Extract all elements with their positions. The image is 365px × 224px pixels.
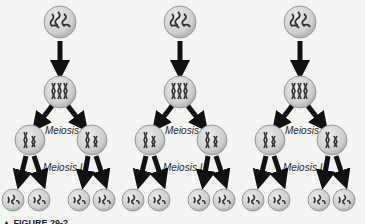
arrow-icon [84, 156, 88, 180]
arrow-icon [336, 156, 344, 180]
gamete-cell [213, 189, 235, 211]
arrow-right-icon [188, 106, 202, 124]
meiosis-1-cell-right [197, 125, 227, 155]
parent-cell [284, 6, 316, 38]
gamete-cell [268, 189, 290, 211]
parent-cell [44, 6, 76, 38]
meiosis-1-cell-left [255, 125, 285, 155]
gamete-cell [188, 189, 210, 211]
arrow-left-icon [158, 106, 172, 124]
column-3: Meiosis I Meiosis II [242, 6, 355, 211]
arrow-icon [216, 156, 224, 180]
parent-cell [164, 6, 196, 38]
arrow-icon [204, 156, 208, 180]
gamete-cell [2, 189, 24, 211]
gamete-cell [148, 189, 170, 211]
gamete-cell [122, 189, 144, 211]
meiosis-1-cell-left [15, 125, 45, 155]
replicated-cell [164, 76, 196, 108]
arrow-icon [260, 156, 266, 180]
gamete-cell [308, 189, 330, 211]
arrow-icon [324, 156, 328, 180]
meiosis-2-label: Meiosis II [43, 162, 85, 173]
meiosis-2-label: Meiosis II [283, 162, 325, 173]
gamete-cell [333, 189, 355, 211]
replicated-cell [284, 76, 316, 108]
arrow-left-icon [278, 106, 292, 124]
column-2: Meiosis I Meiosis II [122, 6, 235, 211]
column-1: Meiosis I Meiosis II [2, 6, 115, 211]
arrow-icon [140, 156, 146, 180]
arrow-right-icon [308, 106, 322, 124]
arrow-icon [34, 156, 42, 180]
gamete-cell [242, 189, 264, 211]
arrow-icon [154, 156, 162, 180]
arrow-icon [96, 156, 104, 180]
meiosis-1-cell-left [135, 125, 165, 155]
arrow-icon [20, 156, 26, 180]
meiosis-2-label: Meiosis II [163, 162, 205, 173]
figure-caption: ▲ FIGURE 29-2 [2, 218, 68, 224]
arrow-icon [274, 156, 282, 180]
replicated-cell [44, 76, 76, 108]
arrow-left-icon [38, 106, 52, 124]
gamete-cell [28, 189, 50, 211]
meiosis-diagram: Meiosis I Meiosis II Meiosis I Meiosis I… [0, 0, 365, 224]
meiosis-1-cell-right [317, 125, 347, 155]
gamete-cell [68, 189, 90, 211]
gamete-cell [93, 189, 115, 211]
meiosis-1-cell-right [77, 125, 107, 155]
arrow-right-icon [68, 106, 82, 124]
